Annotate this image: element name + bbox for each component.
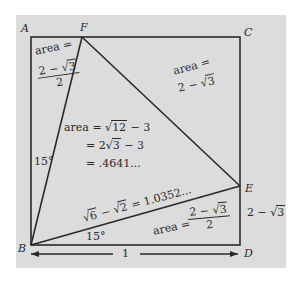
side-BD-length: 1 <box>122 248 129 259</box>
sqrt-radicand: 3 <box>112 138 121 152</box>
vertex-label-D: D <box>244 248 253 259</box>
sqrt-radicand: 3 <box>218 202 228 217</box>
line1-prefix: area = <box>64 121 105 134</box>
fraction-BDE: 2 − √3 2 <box>187 203 231 232</box>
numerator-prefix: 2 − <box>189 204 213 219</box>
vertex-label-E: E <box>245 183 253 194</box>
angle-label-ABF: 15° <box>34 156 54 167</box>
area-BFE-line2: = 2√3 − 3 <box>86 140 144 151</box>
area-BFE-line3: = .4641... <box>86 158 141 169</box>
line1-suffix: − 3 <box>127 121 150 134</box>
sqrt-radicand: 3 <box>67 58 78 73</box>
side-ED-length: 2 − √3 <box>247 207 285 218</box>
sqrt-radicand: 12 <box>111 120 127 134</box>
angle-label-EBD: 15° <box>86 231 106 242</box>
side-ED-prefix: 2 − <box>247 206 270 219</box>
vertex-label-B: B <box>18 243 26 254</box>
vertex-label-C: C <box>244 27 252 38</box>
line2-prefix: = 2 <box>86 139 106 152</box>
line2-suffix: − 3 <box>121 139 144 152</box>
vertex-label-A: A <box>21 23 29 34</box>
vertex-label-F: F <box>80 22 88 33</box>
sqrt-radicand: 3 <box>276 205 285 219</box>
area-fraction-BDE: 2 − √3 2 <box>187 203 231 232</box>
area-BFE-line1: area = √12 − 3 <box>64 122 150 133</box>
